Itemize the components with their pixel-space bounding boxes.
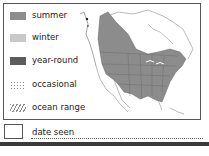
occasional-dotted-swatch-icon [10, 81, 26, 89]
winter-swatch-icon [10, 34, 26, 42]
legend-item-ocean-range: ocean range [10, 103, 85, 112]
north-america-range-map [78, 4, 200, 119]
date-seen-input-line[interactable] [31, 138, 203, 139]
legend-label: occasional [32, 80, 77, 89]
west-coast-outline [80, 12, 96, 66]
legend-item-year-round: year-round [10, 56, 78, 65]
summer-swatch-icon [10, 12, 26, 20]
year-round-swatch-icon [10, 57, 26, 65]
legend-item-occasional: occasional [10, 80, 77, 89]
legend-item-summer: summer [10, 11, 67, 20]
summer-range-area [98, 12, 186, 102]
date-seen-label: date seen [32, 127, 74, 137]
ocean-range-hatched-swatch-icon [10, 104, 26, 112]
legend-item-winter: winter [10, 33, 59, 42]
bottom-divider [0, 142, 209, 146]
legend-label: winter [32, 33, 59, 42]
legend-label: year-round [32, 56, 78, 65]
date-seen-checkbox[interactable] [4, 124, 23, 139]
legend-label: summer [32, 11, 67, 20]
